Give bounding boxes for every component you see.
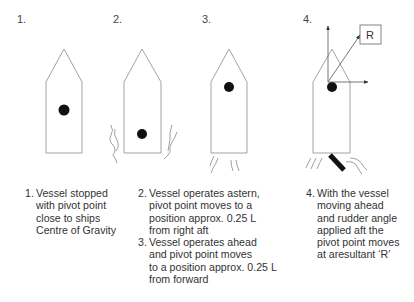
caption-2-text: Vessel operates astern, pivot point move… xyxy=(149,187,260,236)
caption-1-number: 1. xyxy=(25,187,36,236)
pivot-point-4 xyxy=(327,82,337,92)
vessel-3 xyxy=(210,49,247,173)
caption-2: 2. Vessel operates astern, pivot point m… xyxy=(138,187,260,236)
caption-3-number: 3. xyxy=(138,236,149,285)
caption-2-number: 2. xyxy=(138,187,149,236)
caption-4: 4. With the vessel moving ahead and rudd… xyxy=(306,187,399,261)
wake-astern-3 xyxy=(210,156,239,173)
caption-4-number: 4. xyxy=(306,187,317,261)
vessel-2 xyxy=(110,49,177,163)
vessel-1 xyxy=(46,49,82,153)
pivot-point-3 xyxy=(224,82,234,92)
caption-3-text: Vessel operates ahead and pivot point mo… xyxy=(149,236,277,285)
pivot-point-2 xyxy=(137,129,147,139)
caption-1: 1. Vessel stopped with pivot point close… xyxy=(25,187,116,236)
pivot-point-1 xyxy=(59,105,70,116)
vessel-4: R xyxy=(306,25,381,174)
caption-3: 3. Vessel operates ahead and pivot point… xyxy=(138,236,277,285)
caption-4-text: With the vessel moving ahead and rudder … xyxy=(317,187,399,261)
rudder xyxy=(330,155,344,170)
resultant-label: R xyxy=(366,29,374,41)
caption-1-text: Vessel stopped with pivot point close to… xyxy=(36,187,116,236)
resultant-vector-arrow xyxy=(328,35,360,82)
